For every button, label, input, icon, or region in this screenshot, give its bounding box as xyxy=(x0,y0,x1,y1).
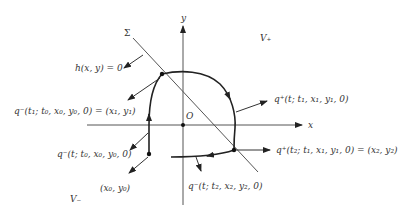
upper-trajectory-label: q⁺(t; t₁, x₁, y₁, 0) xyxy=(274,94,349,104)
start-point xyxy=(147,152,151,156)
first-hit-point xyxy=(160,72,164,76)
origin-point xyxy=(181,123,185,127)
trajectory-return-direction-arrow xyxy=(207,155,212,156)
trajectory-upper-arc xyxy=(162,72,235,150)
region-v-plus-label: V₊ xyxy=(260,33,271,43)
region-v-minus-label: V₋ xyxy=(70,194,81,204)
sigma-label: Σ xyxy=(124,28,130,38)
x-axis-label: x xyxy=(308,120,313,130)
trajectory-upper-direction-arrow xyxy=(228,95,230,99)
lower-trajectory-pointer xyxy=(130,133,148,150)
trajectory-lower-segment xyxy=(149,74,162,154)
second-hit-label: q⁺(t₂; t₁, x₁, y₁, 0) = (x₂, y₂) xyxy=(276,145,398,155)
origin-label: O xyxy=(186,111,194,121)
return-trajectory-pointer xyxy=(196,157,201,171)
start-point-pointer xyxy=(129,157,148,173)
sigma-equation-label: h(x, y) = 0 xyxy=(75,63,123,73)
start-point-label: (x₀, y₀) xyxy=(100,183,131,193)
phase-diagram: x y O V₊ V₋ Σ h(x, y) = 0 q⁻(t₁; t₀, x₀,… xyxy=(0,0,402,217)
first-hit-label: q⁻(t₁; t₀, x₀, y₀, 0) = (x₁, y₁) xyxy=(14,106,136,116)
upper-trajectory-pointer xyxy=(236,101,267,112)
return-trajectory-label: q⁻(t; t₂, x₂, y₂, 0) xyxy=(188,181,263,191)
switching-line-sigma xyxy=(133,38,258,172)
y-axis-label: y xyxy=(180,13,187,23)
first-hit-pointer xyxy=(128,78,160,100)
trajectory-return-segment xyxy=(171,150,234,157)
sigma-equation-pointer xyxy=(124,55,143,68)
second-hit-point xyxy=(232,148,236,152)
lower-trajectory-label: q⁻(t; t₀, x₀, y₀, 0) xyxy=(57,149,132,159)
